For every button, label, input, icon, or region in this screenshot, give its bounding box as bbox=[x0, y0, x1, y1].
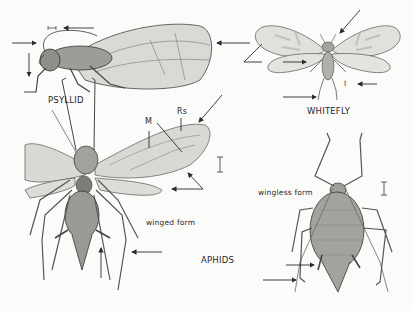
vein-label-m: M bbox=[145, 117, 152, 126]
wingless-aphid-illustration bbox=[263, 133, 392, 292]
whitefly-illustration bbox=[244, 10, 400, 100]
psyllid-illustration bbox=[12, 24, 212, 92]
winged-aphid-illustration bbox=[25, 78, 223, 290]
whitefly-label: WHITEFLY bbox=[307, 106, 350, 116]
wingless-form-label: wingless form bbox=[258, 188, 313, 197]
whitefly-scale-glyph: I bbox=[344, 79, 346, 88]
aphids-label: APHIDS bbox=[201, 255, 234, 265]
vein-label-rs: Rs bbox=[177, 107, 187, 116]
psyllid-label: PSYLLID bbox=[48, 95, 84, 105]
winged-form-label: winged form bbox=[146, 218, 195, 227]
